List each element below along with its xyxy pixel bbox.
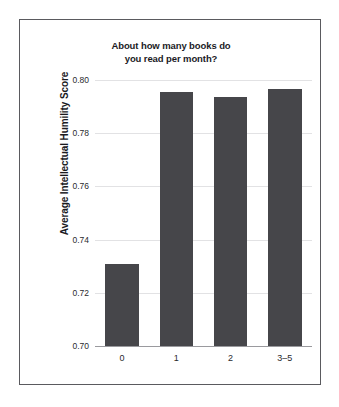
bar-2 — [214, 97, 248, 346]
bars-layer — [95, 80, 312, 346]
bar-3–5 — [268, 89, 302, 346]
x-tick-label-1: 1 — [174, 353, 179, 363]
chart-title-line-1: About how many books do — [60, 39, 282, 52]
y-axis-title: Average Intellectual Humility Score — [59, 44, 70, 264]
x-tick-label-3–5: 3–5 — [277, 353, 292, 363]
y-tick-label-0.76: 0.76 — [72, 181, 89, 191]
x-tick-label-0: 0 — [120, 353, 125, 363]
y-tick-label-0.72: 0.72 — [72, 288, 89, 298]
bar-1 — [160, 92, 194, 346]
y-tick-label-0.80: 0.80 — [72, 75, 89, 85]
chart-title-line-2: you read per month? — [60, 52, 282, 65]
y-tick-label-0.78: 0.78 — [72, 128, 89, 138]
plot-area: 0.700.720.740.760.780.80 0123–5 — [95, 80, 312, 346]
y-tick-label-0.70: 0.70 — [72, 341, 89, 351]
gridline-0.70: 0.70 — [95, 346, 312, 347]
y-tick-label-0.74: 0.74 — [72, 235, 89, 245]
chart-figure-frame: About how many books do you read per mon… — [19, 19, 321, 385]
x-tick-label-2: 2 — [228, 353, 233, 363]
chart-title: About how many books do you read per mon… — [60, 39, 282, 65]
bar-0 — [105, 264, 139, 346]
